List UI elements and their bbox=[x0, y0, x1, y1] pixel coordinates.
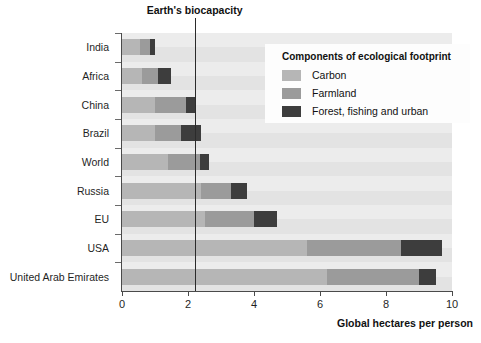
bar-segment-forest bbox=[419, 269, 436, 285]
x-tick bbox=[188, 291, 189, 296]
y-tick-label: Africa bbox=[82, 70, 109, 82]
bar-segment-carbon bbox=[122, 154, 168, 170]
x-tick-label: 4 bbox=[251, 298, 257, 310]
x-tick-label: 8 bbox=[383, 298, 389, 310]
bar-segment-forest bbox=[200, 154, 210, 170]
biocapacity-line bbox=[195, 18, 196, 291]
y-tick-label: EU bbox=[94, 213, 109, 225]
x-tick bbox=[320, 291, 321, 296]
bar-segment-carbon bbox=[122, 183, 201, 199]
y-tick-label: Brazil bbox=[83, 127, 109, 139]
bar-segment-farmland bbox=[140, 39, 150, 55]
legend: Components of ecological footprint Carbo… bbox=[265, 44, 470, 123]
bar-segment-forest bbox=[150, 39, 155, 55]
bar-united-arab-emirates bbox=[122, 269, 452, 285]
x-tick-label: 6 bbox=[317, 298, 323, 310]
biocapacity-label: Earth's biocapacity bbox=[147, 4, 243, 16]
legend-swatch-icon bbox=[282, 88, 301, 99]
y-tick-label: World bbox=[82, 156, 109, 168]
x-tick bbox=[254, 291, 255, 296]
bar-segment-farmland bbox=[155, 125, 181, 141]
bar-segment-forest bbox=[401, 240, 442, 256]
bar-segment-carbon bbox=[122, 39, 140, 55]
y-tick-label: Russia bbox=[77, 185, 109, 197]
bar-world bbox=[122, 154, 452, 170]
legend-swatch-icon bbox=[282, 106, 301, 117]
bar-segment-forest bbox=[158, 68, 171, 84]
bar-eu bbox=[122, 211, 452, 227]
bar-segment-farmland bbox=[155, 97, 186, 113]
y-tick-label: India bbox=[86, 41, 109, 53]
bar-segment-forest bbox=[181, 125, 201, 141]
bar-russia bbox=[122, 183, 452, 199]
x-axis-line bbox=[121, 291, 452, 292]
bar-segment-forest bbox=[231, 183, 248, 199]
bar-segment-carbon bbox=[122, 125, 155, 141]
x-tick bbox=[452, 291, 453, 296]
bar-segment-carbon bbox=[122, 97, 155, 113]
bar-segment-forest bbox=[254, 211, 277, 227]
x-tick bbox=[122, 291, 123, 296]
legend-item-label: Carbon bbox=[312, 68, 346, 83]
y-tick-label: United Arab Emirates bbox=[10, 271, 109, 283]
bar-brazil bbox=[122, 125, 452, 141]
bar-segment-carbon bbox=[122, 68, 142, 84]
legend-title: Components of ecological footprint bbox=[282, 51, 451, 62]
y-tick-label: USA bbox=[87, 242, 109, 254]
y-axis-labels: IndiaAfricaChinaBrazilWorldRussiaEUUSAUn… bbox=[0, 33, 117, 291]
bar-segment-carbon bbox=[122, 211, 205, 227]
legend-item-label: Farmland bbox=[312, 86, 356, 101]
bar-segment-farmland bbox=[142, 68, 159, 84]
x-axis-title: Global hectares per person bbox=[337, 317, 473, 329]
y-axis-line bbox=[121, 33, 122, 291]
legend-swatch-icon bbox=[282, 70, 301, 81]
bar-segment-farmland bbox=[201, 183, 231, 199]
bar-segment-farmland bbox=[327, 269, 419, 285]
x-tick bbox=[386, 291, 387, 296]
legend-item-label: Forest, fishing and urban bbox=[312, 104, 428, 119]
x-tick-label: 0 bbox=[119, 298, 125, 310]
chart-root: IndiaAfricaChinaBrazilWorldRussiaEUUSAUn… bbox=[0, 0, 481, 343]
x-tick-label: 2 bbox=[185, 298, 191, 310]
y-tick-label: China bbox=[82, 99, 109, 111]
bar-segment-farmland bbox=[307, 240, 401, 256]
bar-segment-farmland bbox=[205, 211, 255, 227]
bar-segment-carbon bbox=[122, 240, 307, 256]
bar-segment-carbon bbox=[122, 269, 327, 285]
x-tick-label: 10 bbox=[446, 298, 458, 310]
bar-usa bbox=[122, 240, 452, 256]
